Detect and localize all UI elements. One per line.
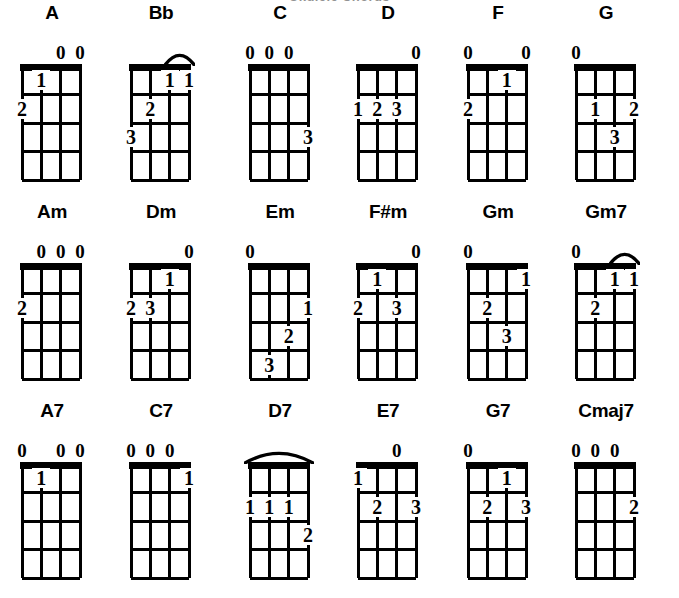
chord-name-label: Gm7 xyxy=(564,201,648,222)
fret-line xyxy=(358,122,416,125)
fret-line xyxy=(250,378,308,381)
fret-line xyxy=(131,378,189,381)
open-string-marker: 0 xyxy=(261,43,277,62)
fret-line xyxy=(22,349,80,352)
open-string-marker: 0 xyxy=(281,43,297,62)
finger-number: 1 xyxy=(498,468,516,488)
fretboard-grid xyxy=(250,464,308,578)
open-string-marker: 0 xyxy=(33,242,49,261)
fret-line xyxy=(576,179,634,182)
fret-line xyxy=(131,93,189,96)
fretboard-grid xyxy=(22,464,80,578)
fret-line xyxy=(468,93,526,96)
seventh-chords-row: A70001C70001D71112E70123G70123Cmaj70002 xyxy=(0,398,679,597)
fret-line xyxy=(250,122,308,125)
fret-line xyxy=(250,520,308,523)
fret-line xyxy=(22,491,80,494)
open-string-marker: 0 xyxy=(53,43,69,62)
fret-line xyxy=(358,292,416,295)
open-string-marker: 0 xyxy=(142,441,158,460)
fret-line xyxy=(250,93,308,96)
chord-diagram[interactable]: G70123 xyxy=(456,398,565,597)
fret-line xyxy=(131,292,189,295)
fret-line xyxy=(22,93,80,96)
finger-number: 1 xyxy=(606,269,624,289)
chord-diagram[interactable]: F0012 xyxy=(456,0,565,199)
fret-line xyxy=(22,577,80,580)
barre-arc xyxy=(244,450,314,464)
fret-line xyxy=(131,321,189,324)
finger-number: 1 xyxy=(260,497,278,517)
finger-number: 3 xyxy=(388,298,406,318)
chord-diagram[interactable]: Em0123 xyxy=(238,199,347,398)
fret-line xyxy=(131,577,189,580)
fret-line xyxy=(468,520,526,523)
fretboard-grid xyxy=(358,265,416,379)
finger-number: 2 xyxy=(625,99,643,119)
chord-diagram[interactable]: G0123 xyxy=(564,0,673,199)
open-string-marker: 0 xyxy=(408,242,424,261)
fret-line xyxy=(131,520,189,523)
fret-line xyxy=(358,378,416,381)
fret-line xyxy=(131,150,189,153)
chord-name-label: D7 xyxy=(238,400,322,421)
finger-number: 3 xyxy=(299,127,317,147)
open-string-marker: 0 xyxy=(460,43,476,62)
open-string-marker: 0 xyxy=(53,242,69,261)
chord-diagram[interactable]: E70123 xyxy=(346,398,455,597)
finger-number: 3 xyxy=(141,298,159,318)
finger-number: 1 xyxy=(280,497,298,517)
chord-name-label: Cmaj7 xyxy=(564,400,648,421)
nut-bar xyxy=(574,64,636,71)
fret-line xyxy=(576,548,634,551)
fret-line xyxy=(358,179,416,182)
fret-line xyxy=(576,93,634,96)
chord-diagram[interactable]: Am0002 xyxy=(10,199,119,398)
fret-line xyxy=(358,93,416,96)
fret-line xyxy=(576,349,634,352)
chord-name-label: A7 xyxy=(10,400,94,421)
open-string-marker: 0 xyxy=(242,242,258,261)
chord-diagram[interactable]: F#m0123 xyxy=(346,199,455,398)
open-string-marker: 0 xyxy=(408,43,424,62)
finger-number: 1 xyxy=(517,269,535,289)
fret-line xyxy=(250,292,308,295)
fret-line xyxy=(358,491,416,494)
nut-bar xyxy=(356,263,418,270)
fret-line xyxy=(22,321,80,324)
open-string-marker: 0 xyxy=(568,441,584,460)
chord-name-label: Em xyxy=(238,201,322,222)
chord-diagram[interactable]: A0012 xyxy=(10,0,119,199)
fret-line xyxy=(131,491,189,494)
chord-diagram[interactable]: A70001 xyxy=(10,398,119,597)
finger-number: 2 xyxy=(299,525,317,545)
chord-diagram[interactable]: C0003 xyxy=(238,0,347,199)
barre-arc xyxy=(609,251,640,265)
chord-diagram[interactable]: C70001 xyxy=(119,398,228,597)
chord-diagram[interactable]: Cmaj70002 xyxy=(564,398,673,597)
chord-name-label: Bb xyxy=(119,2,203,23)
fret-line xyxy=(468,577,526,580)
finger-number: 2 xyxy=(280,326,298,346)
fret-line xyxy=(131,349,189,352)
fret-line xyxy=(22,179,80,182)
fretboard-grid xyxy=(22,66,80,180)
finger-number: 3 xyxy=(517,497,535,517)
chord-diagram[interactable]: Dm0123 xyxy=(119,199,228,398)
chord-diagram[interactable]: D0123 xyxy=(346,0,455,199)
finger-number: 1 xyxy=(586,99,604,119)
open-string-marker: 0 xyxy=(568,242,584,261)
chord-name-label: Am xyxy=(10,201,94,222)
chord-diagram[interactable]: D71112 xyxy=(238,398,347,597)
chord-name-label: C7 xyxy=(119,400,203,421)
fret-line xyxy=(22,292,80,295)
finger-number: 2 xyxy=(625,497,643,517)
finger-number: 2 xyxy=(368,99,386,119)
finger-number: 1 xyxy=(349,468,367,488)
chord-diagram[interactable]: Bb1123 xyxy=(119,0,228,199)
fretboard-grid xyxy=(250,66,308,180)
fret-line xyxy=(576,491,634,494)
chord-diagram[interactable]: Gm0123 xyxy=(456,199,565,398)
chord-name-label: D xyxy=(346,2,430,23)
chord-diagram[interactable]: Gm70112 xyxy=(564,199,673,398)
